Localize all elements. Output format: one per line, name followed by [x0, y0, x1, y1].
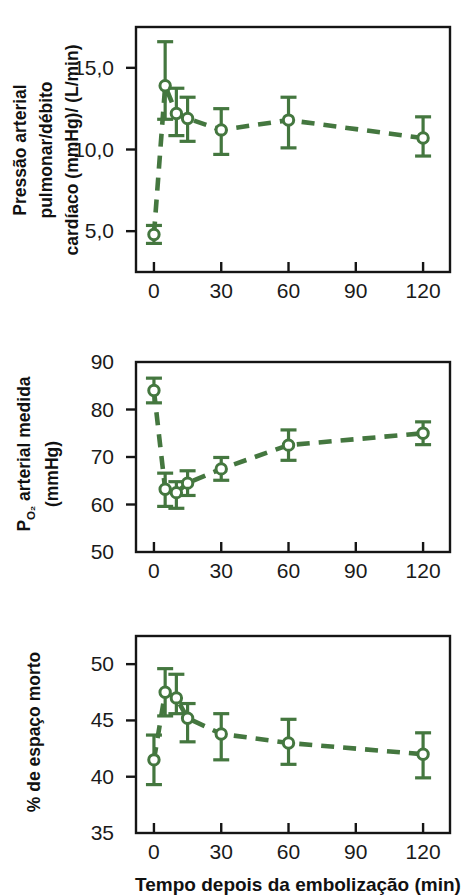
- x-tick-label: 60: [277, 559, 300, 582]
- x-tick-label: 90: [344, 840, 367, 863]
- y-tick-label: 90: [91, 350, 114, 373]
- plot-frame: [136, 362, 450, 552]
- plot-frame: [136, 636, 450, 833]
- data-point-marker: [216, 464, 226, 474]
- data-point-marker: [216, 125, 226, 135]
- y-tick-label: 45: [91, 708, 114, 731]
- data-point-marker: [171, 108, 181, 118]
- y-tick-label: 35: [91, 821, 114, 844]
- x-tick-label: 120: [406, 559, 441, 582]
- data-point-marker: [160, 687, 170, 697]
- y-tick-label: 70: [91, 445, 114, 468]
- data-point-marker: [149, 755, 159, 765]
- data-point-marker: [418, 133, 428, 143]
- figure-panel-group: 5,010,015,00306090120Pressão arterialpul…: [0, 0, 474, 896]
- y-axis-title-line: pulmonar/débito: [36, 81, 56, 218]
- y-axis-title-line: cardíaco (mmHg)/ (L/min): [62, 45, 82, 256]
- data-point-marker: [182, 478, 192, 488]
- data-point-marker: [182, 713, 192, 723]
- y-tick-label: 50: [91, 540, 114, 563]
- y-axis-title-line: % de espaço morto: [24, 652, 44, 812]
- x-tick-label: 60: [277, 840, 300, 863]
- chart-panel-deadspace: 354045500306090120% de espaço mortoTempo…: [0, 600, 474, 896]
- y-axis-title-units: (mmHg): [42, 441, 62, 507]
- x-tick-label: 60: [277, 279, 300, 302]
- x-tick-label: 0: [148, 840, 160, 863]
- data-point-marker: [283, 738, 293, 748]
- y-axis-title-po2: PO₂ arterial medida: [14, 376, 37, 531]
- x-tick-label: 0: [148, 279, 160, 302]
- y-tick-label: 50: [91, 652, 114, 675]
- x-tick-label: 30: [210, 279, 233, 302]
- y-tick-label: 80: [91, 398, 114, 421]
- x-tick-label: 0: [148, 559, 160, 582]
- y-tick-label: 5,0: [85, 219, 114, 242]
- data-point-marker: [283, 115, 293, 125]
- x-tick-label: 90: [344, 559, 367, 582]
- data-point-marker: [182, 113, 192, 123]
- x-tick-label: 120: [406, 840, 441, 863]
- data-point-marker: [418, 428, 428, 438]
- data-point-marker: [149, 385, 159, 395]
- x-tick-label: 120: [406, 279, 441, 302]
- y-axis-title-line: Pressão arterial: [10, 84, 30, 215]
- data-point-marker: [418, 749, 428, 759]
- x-axis-caption: Tempo depois da embolização (min): [135, 874, 461, 895]
- data-point-marker: [160, 484, 170, 494]
- y-tick-label: 60: [91, 493, 114, 516]
- x-tick-label: 90: [344, 279, 367, 302]
- data-point-marker: [216, 729, 226, 739]
- x-tick-label: 30: [210, 840, 233, 863]
- y-axis-title-line: PO₂ arterial medida: [14, 376, 37, 531]
- chart-svg: 354045500306090120% de espaço mortoTempo…: [0, 600, 474, 896]
- x-tick-label: 30: [210, 559, 233, 582]
- data-point-marker: [283, 440, 293, 450]
- data-point-marker: [149, 229, 159, 239]
- chart-panel-po2: 50607080900306090120PO₂ arterial medida(…: [0, 322, 474, 600]
- chart-svg: 5,010,015,00306090120Pressão arterialpul…: [0, 0, 474, 322]
- chart-panel-pressure: 5,010,015,00306090120Pressão arterialpul…: [0, 0, 474, 322]
- chart-svg: 50607080900306090120PO₂ arterial medida(…: [0, 322, 474, 600]
- y-tick-label: 40: [91, 765, 114, 788]
- data-point-marker: [171, 693, 181, 703]
- plot-frame: [136, 27, 450, 272]
